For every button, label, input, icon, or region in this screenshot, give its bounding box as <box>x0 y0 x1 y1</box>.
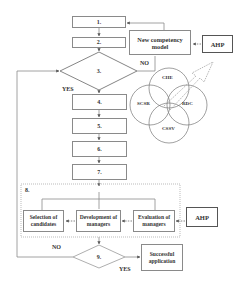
successful-application-label: Successful application <box>142 251 182 265</box>
step-3-label: 3. <box>88 66 110 76</box>
step-1-label: 1. <box>97 19 102 26</box>
evaluation-of-managers-label: Evaluation of managers <box>134 214 174 228</box>
development-of-managers-box: Development of managers <box>76 210 121 232</box>
ahp-bottom-box: AHP <box>186 207 218 227</box>
step-5-label: 5. <box>97 123 102 130</box>
ahp-top-label: AHP <box>211 41 225 48</box>
venn-scsr-label: SCSR <box>137 101 150 106</box>
step-2-label: 2. <box>97 39 102 46</box>
step-7-label: 7. <box>97 169 102 176</box>
step-1-box: 1. <box>72 16 126 28</box>
new-competency-model-box: New competency model <box>129 30 191 55</box>
venn-che-label: CHE <box>162 75 173 80</box>
step-4-label: 4. <box>97 99 102 106</box>
decision-3-no-label: NO <box>140 60 149 66</box>
venn-rdc-label: RDC <box>182 101 193 106</box>
ahp-bottom-label: AHP <box>195 214 209 221</box>
decision-3-yes-label: YES <box>62 86 74 92</box>
step-5-box: 5. <box>72 118 127 134</box>
venn-cssv-label: CSSV <box>162 126 175 131</box>
step-6-label: 6. <box>97 146 102 153</box>
selection-of-candidates-box: Selection of candidates <box>23 210 64 232</box>
selection-of-candidates-label: Selection of candidates <box>24 214 63 228</box>
decision-9-yes-label: YES <box>119 266 131 272</box>
ahp-top-box: AHP <box>202 35 233 53</box>
evaluation-of-managers-box: Evaluation of managers <box>133 210 175 232</box>
new-competency-model-label: New competency model <box>133 36 187 50</box>
successful-application-box: Successful application <box>141 244 183 271</box>
step-2-box: 2. <box>72 37 126 48</box>
step-7-box: 7. <box>72 164 127 180</box>
step-9-label: 9. <box>89 252 109 262</box>
decision-9-no-label: NO <box>52 244 61 250</box>
step-6-box: 6. <box>72 141 127 157</box>
step-4-box: 4. <box>72 94 127 110</box>
step-8-label: 8. <box>25 187 30 193</box>
development-of-managers-label: Development of managers <box>77 214 120 228</box>
